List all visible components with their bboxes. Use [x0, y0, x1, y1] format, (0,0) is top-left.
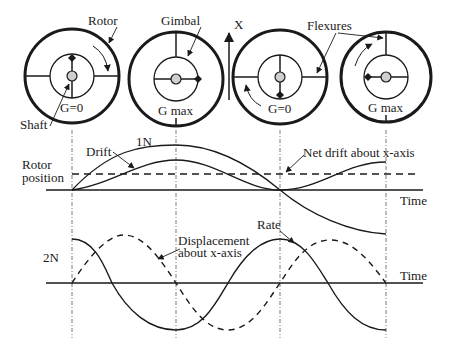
shaft: [381, 72, 391, 82]
rotation-arrow-icon: [246, 85, 261, 106]
shaft: [171, 74, 181, 84]
displacement-leader-arrow-icon: [158, 249, 180, 259]
rate-label: Rate: [257, 217, 281, 232]
net-drift-leader-arrow-icon: [286, 155, 304, 172]
rotor-state-label: G=0: [60, 100, 83, 115]
gimbal-label: Gimbal: [161, 13, 200, 28]
gimbal-mass-icon: [364, 73, 372, 81]
drift-label: Drift: [86, 144, 112, 159]
rotor-state-label: G=0: [268, 101, 291, 116]
graph-1n: 1N Drift Rotor position Net drift about …: [22, 134, 427, 234]
shaft-label: Shaft: [20, 117, 48, 132]
rotor-label: Rotor: [88, 13, 118, 28]
rotor-leader-arrow-icon: [109, 27, 117, 43]
flexures-label: Flexures: [307, 18, 352, 33]
gimbal-mass-icon: [276, 91, 284, 99]
gimbal-leader-arrow-icon: [188, 27, 201, 56]
curve-drift: [72, 160, 386, 190]
time-label-2n: Time: [400, 268, 427, 283]
graph-2n: 2N Rate Displacement about x-axis Time: [43, 217, 427, 330]
time-label-1n: Time: [400, 193, 427, 208]
rotor-state-4: G max: [341, 32, 431, 122]
rotation-arrow-icon: [93, 46, 108, 71]
harmonic-1n-label: 1N: [136, 134, 153, 149]
gyro-rotor-drift-diagram: G=0 G max X G=0 G max: [0, 0, 453, 352]
rotor-state-1: G=0: [25, 29, 119, 123]
rotor-state-label: G max: [368, 100, 404, 115]
rate-leader-arrow-icon: [280, 231, 294, 243]
drift-leader-arrow-icon: [113, 152, 134, 168]
shaft: [67, 71, 77, 81]
displacement-label-line2: about x-axis: [178, 245, 242, 260]
harmonic-2n-label: 2N: [43, 250, 60, 265]
gimbal-mass-icon: [194, 75, 202, 83]
gimbal-mass-icon: [68, 54, 76, 62]
rotor-state-3: G=0: [233, 30, 327, 124]
rotor-state-2: G max: [129, 32, 223, 126]
net-drift-label: Net drift about x-axis: [303, 145, 415, 160]
x-axis-label: X: [234, 17, 244, 32]
rotor-state-label: G max: [158, 103, 194, 118]
shaft: [275, 72, 285, 82]
rotor-position-label-line2: position: [22, 170, 64, 185]
